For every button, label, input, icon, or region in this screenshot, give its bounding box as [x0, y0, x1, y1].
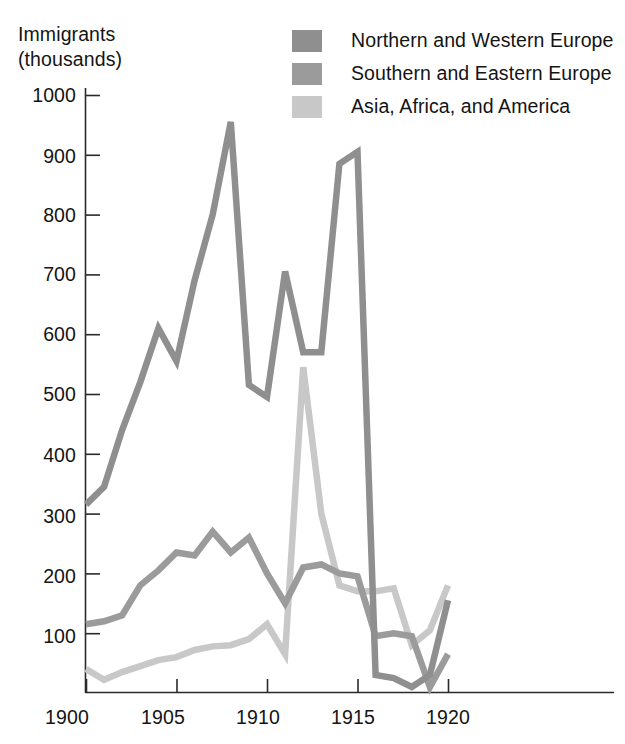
- chart-line-northern-and-western-europe: [86, 122, 448, 687]
- chart-plot-area: [0, 0, 625, 744]
- chart-axes: [86, 88, 615, 693]
- y-axis-ticks: [86, 96, 100, 634]
- chart-figure: Immigrants (thousands) Northern and West…: [0, 0, 625, 744]
- chart-series-layer: [86, 122, 448, 687]
